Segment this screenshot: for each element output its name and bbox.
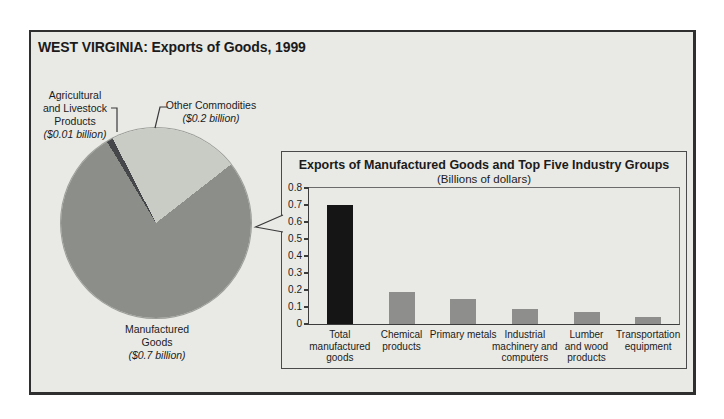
y-axis-tick [304, 323, 309, 324]
y-axis-tick-label: 0.7 [267, 199, 302, 211]
y-axis-tick-label: 0.5 [267, 233, 302, 245]
pie-label-manufactured-goods-text: Manufactured Goods [96, 323, 218, 349]
figure-title: WEST VIRGINIA: Exports of Goods, 1999 [38, 39, 306, 55]
bar-1 [389, 292, 415, 324]
y-axis-tick [304, 272, 309, 273]
y-axis-tick-label: 0.8 [267, 182, 302, 194]
y-axis-tick-label: 0.3 [267, 267, 302, 279]
y-axis-tick-label: 0.4 [267, 250, 302, 262]
y-axis-tick [304, 238, 309, 239]
y-axis-tick [304, 221, 309, 222]
y-axis-tick [304, 187, 309, 188]
pie-label-manufactured-goods: Manufactured Goods ($0.7 billion) [96, 323, 218, 362]
bar-5 [635, 317, 661, 324]
pie-label-other-commodities: Other Commodities ($0.2 billion) [150, 99, 272, 125]
y-axis-tick [304, 255, 309, 256]
y-axis-tick [304, 204, 309, 205]
pie-label-other-commodities-value: ($0.2 billion) [150, 112, 272, 125]
pie-label-agricultural-value: ($0.01 billion) [32, 128, 118, 141]
bar-category-label-5: Transportation equipment [606, 329, 690, 352]
bar-plot-area: Total manufactured goodsChemical product… [308, 187, 680, 325]
bar-3 [512, 309, 538, 324]
figure-canvas: WEST VIRGINIA: Exports of Goods, 1999 Ag… [0, 0, 724, 419]
pie-label-manufactured-goods-value: ($0.7 billion) [96, 349, 218, 362]
bar-4 [574, 312, 600, 324]
bar-chart-panel: Exports of Manufactured Goods and Top Fi… [281, 151, 687, 369]
y-axis-tick [304, 306, 309, 307]
y-axis-tick [304, 289, 309, 290]
y-axis-tick-label: 0.2 [267, 284, 302, 296]
bar-0 [327, 205, 353, 324]
y-axis-tick-label: 0 [267, 318, 302, 330]
y-axis-tick-label: 0.1 [267, 301, 302, 313]
pie-label-agricultural-text: Agricultural and Livestock Products [32, 89, 118, 128]
pie-label-agricultural: Agricultural and Livestock Products ($0.… [32, 89, 118, 141]
pie-label-other-commodities-text: Other Commodities [150, 99, 272, 112]
bar-chart-title: Exports of Manufactured Goods and Top Fi… [282, 158, 686, 172]
y-axis-tick-label: 0.6 [267, 216, 302, 228]
bar-2 [450, 299, 476, 325]
bar-chart-subtitle: (Billions of dollars) [282, 173, 686, 185]
pie-chart [61, 128, 251, 318]
bar-category-labels: Total manufactured goodsChemical product… [309, 329, 679, 369]
